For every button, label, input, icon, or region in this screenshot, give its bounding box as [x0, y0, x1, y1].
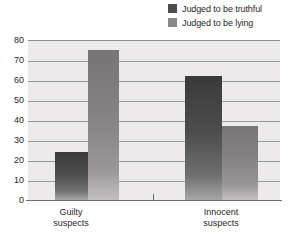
category-label-innocent-line1: Innocent: [166, 207, 276, 218]
y-axis-tick-label: 60: [0, 76, 24, 85]
y-axis-tick-label: 80: [0, 36, 24, 45]
category-label-guilty-line1: Guilty: [16, 207, 126, 218]
y-axis-tick-label: 70: [0, 56, 24, 65]
bar-lying: [222, 126, 258, 200]
category-label-guilty-line2: suspects: [16, 218, 126, 229]
chart-legend: Judged to be truthful Judged to be lying: [168, 2, 295, 30]
legend-swatch-truthful: [168, 4, 177, 13]
legend-item-truthful: Judged to be truthful: [168, 2, 295, 15]
y-axis-tick-label: 0: [0, 196, 24, 205]
gridline: [28, 121, 280, 122]
plot-area: [28, 40, 280, 200]
y-axis-tick-label: 30: [0, 136, 24, 145]
legend-label-truthful: Judged to be truthful: [182, 4, 262, 14]
category-label-innocent-line2: suspects: [166, 218, 276, 229]
bar-truthful: [55, 152, 88, 200]
bar-truthful: [185, 76, 222, 200]
y-axis-tick-label: 50: [0, 96, 24, 105]
category-label-guilty: Guilty suspects: [16, 207, 126, 229]
legend-item-lying: Judged to be lying: [168, 16, 295, 29]
y-axis-tick-label: 20: [0, 156, 24, 165]
gridline: [28, 81, 280, 82]
gridline: [28, 61, 280, 62]
gridline: [28, 101, 280, 102]
y-axis-tick-label: 10: [0, 176, 24, 185]
category-label-innocent: Innocent suspects: [166, 207, 276, 229]
x-axis-center-tick: [153, 194, 154, 201]
y-axis-tick-label: 40: [0, 116, 24, 125]
legend-label-lying: Judged to be lying: [182, 18, 253, 28]
legend-swatch-lying: [168, 18, 177, 27]
x-axis-line: [26, 200, 282, 201]
bar-lying: [88, 50, 119, 200]
